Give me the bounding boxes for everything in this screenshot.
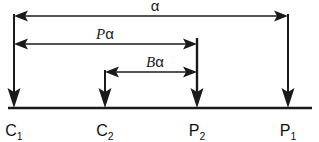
marker-c2 — [99, 70, 112, 108]
dimension-alpha-label-symbol: α — [151, 0, 160, 14]
diagram-canvas: α Pα Bα C1 C2 P2 — [0, 0, 319, 142]
point-label-c1: C1 — [5, 122, 23, 142]
point-label-p2: P2 — [189, 122, 206, 142]
marker-c1 — [8, 14, 21, 108]
dimension-diagram: α Pα Bα C1 C2 P2 — [0, 0, 319, 142]
point-label-p1-base: P — [280, 122, 291, 139]
marker-p1 — [282, 14, 295, 108]
dimension-p-alpha-label: Pα — [95, 25, 114, 42]
dimension-p-alpha-label-symbol: α — [105, 25, 114, 42]
point-label-p1: P1 — [280, 122, 297, 142]
dimension-alpha-label: α — [151, 0, 160, 14]
point-label-p2-subscript: 2 — [199, 130, 205, 142]
point-label-c2: C2 — [96, 122, 114, 142]
point-label-p2-base: P — [189, 122, 200, 139]
point-label-c2-base: C — [96, 122, 108, 139]
point-label-c1-subscript: 1 — [17, 130, 23, 142]
dimension-p-alpha: Pα — [14, 25, 197, 50]
dimension-p-alpha-label-var: P — [95, 26, 105, 42]
dimension-b-alpha-label-symbol: α — [155, 53, 164, 70]
point-label-c1-base: C — [5, 122, 17, 139]
dimension-b-alpha: Bα — [105, 53, 197, 78]
point-label-p1-subscript: 1 — [290, 130, 296, 142]
dimension-alpha: α — [14, 0, 288, 22]
dimension-b-alpha-label: Bα — [146, 53, 164, 70]
point-label-c2-subscript: 2 — [108, 130, 114, 142]
dimension-b-alpha-label-var: B — [146, 54, 155, 70]
